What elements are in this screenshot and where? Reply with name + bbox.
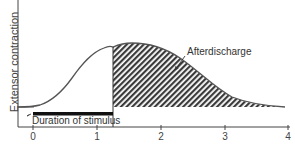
y-axis-label: Extensor contraction — [8, 2, 20, 122]
x-tick-2: 2 — [155, 131, 167, 142]
stimulus-arrow-icon — [27, 114, 31, 116]
afterdischarge-label: Afterdischarge — [187, 46, 251, 57]
x-tick-4: 4 — [282, 131, 294, 142]
x-tick-1: 1 — [91, 131, 103, 142]
stimulus-label: Duration of stimulus — [32, 115, 120, 126]
x-tick-3: 3 — [219, 131, 231, 142]
x-tick-0: 0 — [27, 131, 39, 142]
